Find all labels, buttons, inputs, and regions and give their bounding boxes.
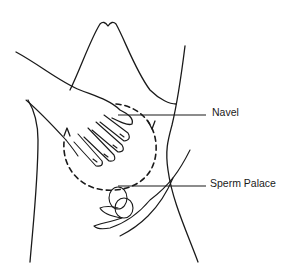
navel-label: Navel	[212, 106, 239, 118]
sperm-palace-label: Sperm Palace	[210, 177, 276, 189]
palm-edge	[66, 140, 78, 156]
torso-drawing	[0, 0, 303, 274]
torso-right-side	[167, 46, 198, 262]
arrow-up-icon	[64, 128, 70, 136]
nail-2	[113, 145, 117, 148]
nail-4	[93, 159, 97, 162]
torso-left-side	[28, 100, 38, 262]
circular-motion-path	[64, 104, 156, 190]
arrow-down-icon	[148, 121, 155, 129]
arm-lower-edge	[26, 100, 66, 140]
nail-1	[120, 134, 124, 137]
torso-illustration: Navel Sperm Palace	[0, 0, 303, 274]
finger-3	[84, 128, 115, 161]
upper-arm	[16, 52, 132, 125]
